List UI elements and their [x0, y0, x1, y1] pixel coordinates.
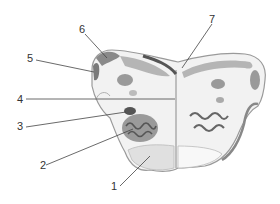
leader-line-2 — [46, 129, 133, 165]
nucleus-left-small — [129, 90, 137, 96]
label-4: 4 — [17, 94, 23, 105]
label-2: 2 — [40, 160, 46, 171]
right-lateral-region — [250, 70, 260, 90]
nucleus-left — [117, 74, 133, 86]
label-7: 7 — [209, 14, 215, 25]
label-1: 1 — [111, 181, 117, 192]
region-3 — [124, 107, 136, 115]
leader-line-6 — [85, 34, 107, 58]
medulla-cross-section-diagram — [0, 0, 280, 204]
label-5: 5 — [27, 53, 33, 64]
nucleus-right — [211, 79, 225, 89]
leader-line-5 — [36, 60, 94, 72]
label-3: 3 — [17, 121, 23, 132]
nucleus-right-small — [216, 97, 224, 103]
label-6: 6 — [79, 24, 85, 35]
